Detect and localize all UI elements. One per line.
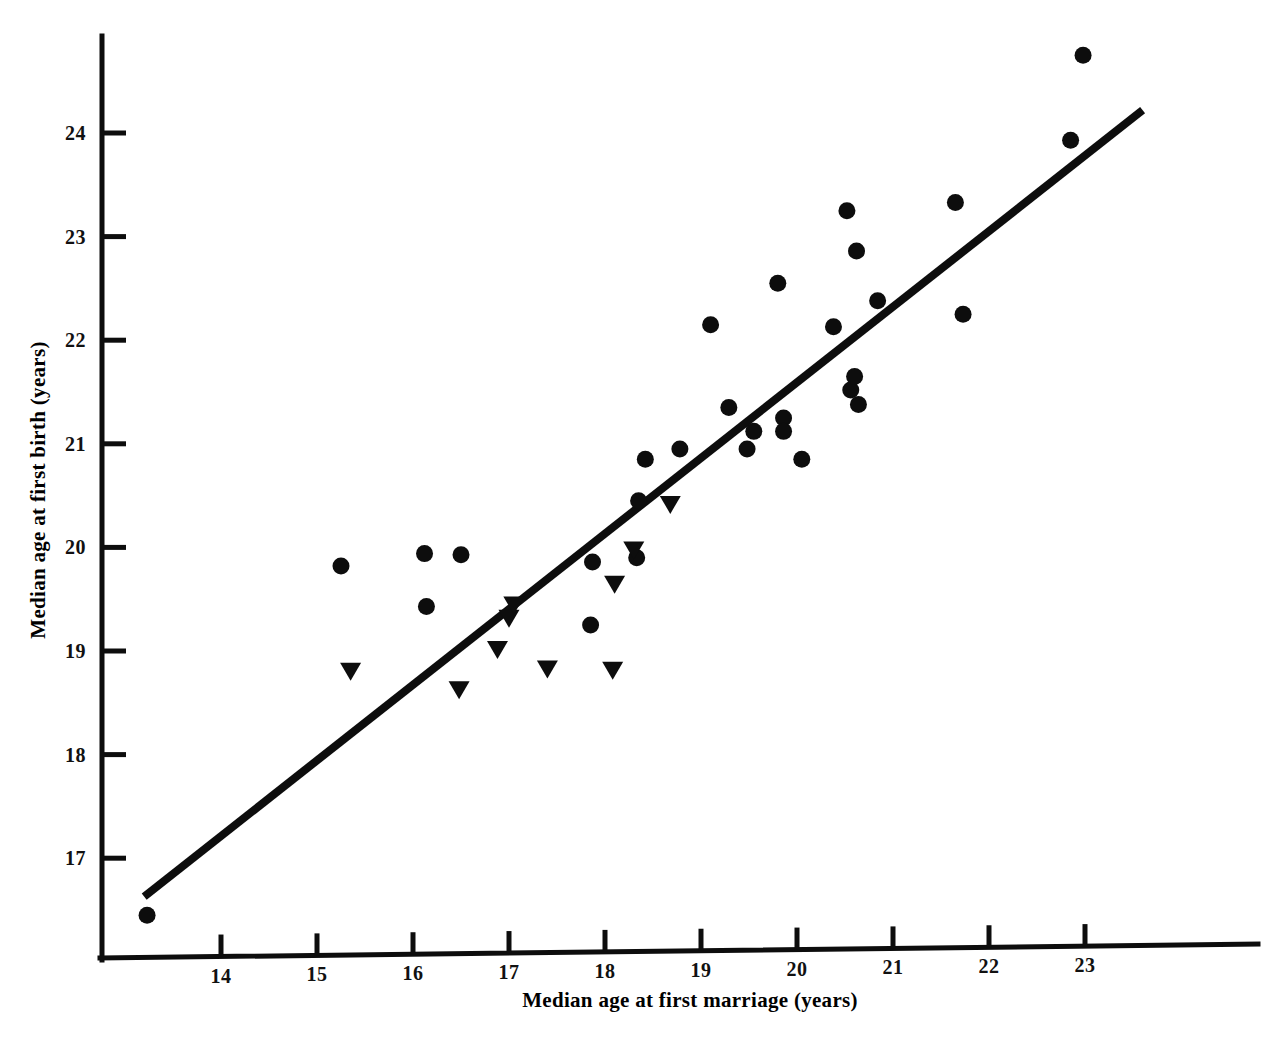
data-point-triangle xyxy=(340,663,361,681)
data-point-circle xyxy=(333,558,350,575)
data-point-circle xyxy=(769,275,786,292)
data-point-triangle xyxy=(487,641,508,659)
x-axis-title: Median age at first marriage (years) xyxy=(522,988,858,1013)
x-tick-label: 23 xyxy=(1075,954,1096,977)
data-point-triangle xyxy=(602,662,623,680)
data-point-triangle xyxy=(604,576,625,594)
data-point-circle xyxy=(418,598,435,615)
data-point-circle xyxy=(453,546,470,563)
x-tick-label: 19 xyxy=(691,959,712,982)
data-point-circle xyxy=(846,368,863,385)
x-tick-label: 21 xyxy=(883,956,904,979)
data-point-circle xyxy=(825,318,842,335)
data-point-circle xyxy=(775,423,792,440)
data-point-circle xyxy=(637,451,654,468)
y-tick-label: 23 xyxy=(42,225,86,248)
x-tick-label: 14 xyxy=(211,965,232,988)
x-tick-label: 16 xyxy=(403,962,424,985)
data-point-circle xyxy=(947,194,964,211)
y-axis-title: Median age at first birth (years) xyxy=(26,341,51,638)
data-point-circle xyxy=(139,907,156,924)
data-point-circle xyxy=(1075,47,1092,64)
y-tick-label: 24 xyxy=(42,122,86,145)
data-point-circle xyxy=(955,306,972,323)
scatter-plot-figure: 1718192021222324 14151617181920212223 Me… xyxy=(0,0,1266,1045)
data-point-triangle xyxy=(449,681,470,699)
data-point-triangle xyxy=(537,661,558,679)
y-tick-label: 18 xyxy=(42,743,86,766)
x-tick-label: 20 xyxy=(787,958,808,981)
x-tick-label: 18 xyxy=(595,960,616,983)
data-point-circle xyxy=(416,545,433,562)
x-tick-label: 22 xyxy=(979,955,1000,978)
y-tick-label: 17 xyxy=(42,847,86,870)
data-point-circle xyxy=(630,492,647,509)
y-tick-marks xyxy=(102,133,126,858)
data-point-circle xyxy=(584,553,601,570)
data-point-circle xyxy=(848,243,865,260)
data-point-circle xyxy=(745,423,762,440)
y-tick-label: 19 xyxy=(42,640,86,663)
data-point-circle xyxy=(671,440,688,457)
data-point-circle xyxy=(838,202,855,219)
data-point-circle xyxy=(869,292,886,309)
x-tick-label: 15 xyxy=(307,963,328,986)
data-point-circle xyxy=(702,316,719,333)
data-point-circle xyxy=(739,440,756,457)
data-point-circle xyxy=(793,451,810,468)
data-point-circle xyxy=(582,617,599,634)
x-tick-label: 17 xyxy=(499,961,520,984)
data-point-circle xyxy=(850,396,867,413)
plot-canvas xyxy=(0,0,1266,1045)
data-point-circle xyxy=(1062,132,1079,149)
data-point-triangle xyxy=(660,496,681,514)
data-point-circle xyxy=(720,399,737,416)
